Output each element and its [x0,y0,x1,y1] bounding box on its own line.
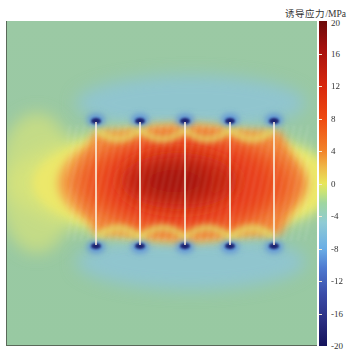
colorbar-tick-label: -16 [331,309,343,319]
colorbar-tick-label: -12 [331,276,343,286]
colorbar-tick [319,216,322,217]
colorbar-tick [319,249,322,250]
heatmap-svg [7,21,317,346]
colorbar-tick-label: 8 [331,114,336,124]
colorbar [319,21,327,346]
colorbar-tick [319,119,322,120]
stress-contour-plot [6,21,317,346]
colorbar-tick [319,184,322,185]
colorbar-tick [319,314,322,315]
colorbar-tick [319,54,322,55]
colorbar-tick [319,281,322,282]
colorbar-tick-label: 20 [331,18,340,28]
colorbar-tick-label: -4 [331,211,339,221]
colorbar-tick-label: -8 [331,244,339,254]
colorbar-tick-label: 12 [331,81,340,91]
colorbar-tick-label: 16 [331,49,340,59]
colorbar-tick-label: -20 [331,341,343,351]
colorbar-tick [319,86,322,87]
colorbar-tick [319,151,322,152]
colorbar-tick-label: 0 [331,179,336,189]
colorbar-tick-label: 4 [331,146,336,156]
